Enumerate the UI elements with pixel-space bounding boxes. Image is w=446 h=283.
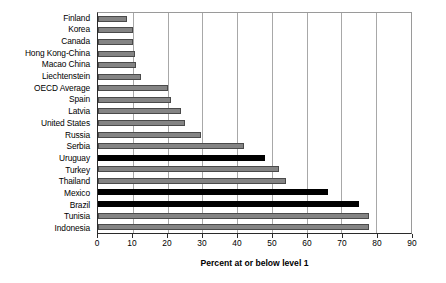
category-label: United States [0, 117, 94, 129]
bar-row [98, 59, 411, 71]
bar-row [98, 210, 411, 222]
x-axis-tick-label: 30 [197, 239, 206, 247]
category-label: Uruguay [0, 152, 94, 164]
x-axis-tick-label: 60 [302, 239, 311, 247]
bar-row [98, 94, 411, 106]
bar [98, 166, 279, 172]
bar-row [98, 48, 411, 60]
bar [98, 213, 369, 219]
bar [98, 143, 244, 149]
bar [98, 120, 185, 126]
x-axis-tick-label: 20 [162, 239, 171, 247]
category-label: Finland [0, 12, 94, 24]
bar-row [98, 106, 411, 118]
bar [98, 155, 265, 161]
bar [98, 178, 286, 184]
category-label: Canada [0, 35, 94, 47]
category-label: Tunisia [0, 211, 94, 223]
category-label: Indonesia [0, 222, 94, 234]
x-axis-title: Percent at or below level 1 [97, 259, 412, 268]
bar [98, 62, 136, 68]
bar-row [98, 140, 411, 152]
x-axis-tick-label: 10 [127, 239, 136, 247]
category-label: OECD Average [0, 82, 94, 94]
x-axis-tick-label: 70 [337, 239, 346, 247]
category-label: Turkey [0, 164, 94, 176]
category-axis-labels: FinlandKoreaCanadaHong Kong-ChinaMacao C… [0, 12, 94, 234]
bar [98, 51, 135, 57]
bar [98, 39, 133, 45]
horizontal-bar-chart: FinlandKoreaCanadaHong Kong-ChinaMacao C… [0, 0, 446, 283]
bar-row [98, 117, 411, 129]
bar [98, 27, 133, 33]
category-label: Russia [0, 129, 94, 141]
bar-row [98, 221, 411, 233]
plot-area [97, 12, 412, 234]
bar [98, 132, 201, 138]
category-label: Macao China [0, 59, 94, 71]
bar [98, 201, 359, 207]
category-label: Thailand [0, 176, 94, 188]
bar-row [98, 152, 411, 164]
bar-row [98, 175, 411, 187]
bar-row [98, 187, 411, 199]
bar-series [98, 13, 411, 233]
bar-row [98, 198, 411, 210]
category-label: Mexico [0, 187, 94, 199]
bar-row [98, 164, 411, 176]
category-label: Latvia [0, 106, 94, 118]
bar-row [98, 13, 411, 25]
x-axis-tick-labels: 0102030405060708090 [97, 239, 412, 251]
bar-row [98, 129, 411, 141]
x-axis-tick-label: 40 [232, 239, 241, 247]
category-label: Serbia [0, 141, 94, 153]
x-axis-tick-label: 50 [267, 239, 276, 247]
category-label: Spain [0, 94, 94, 106]
category-label: Korea [0, 24, 94, 36]
bar-row [98, 71, 411, 83]
category-label: Hong Kong-China [0, 47, 94, 59]
bar-row [98, 36, 411, 48]
category-label: Liechtenstein [0, 70, 94, 82]
bar [98, 108, 181, 114]
bar [98, 85, 168, 91]
x-axis-tick-marks [97, 234, 412, 238]
bar-row [98, 82, 411, 94]
bar [98, 97, 171, 103]
bar [98, 16, 127, 22]
bar [98, 224, 369, 230]
x-axis-tick-label: 80 [372, 239, 381, 247]
bar [98, 74, 141, 80]
category-label: Brazil [0, 199, 94, 211]
bar-row [98, 25, 411, 37]
x-axis-tick-label: 0 [95, 239, 100, 247]
bar [98, 189, 328, 195]
x-axis-tick-label: 90 [407, 239, 416, 247]
